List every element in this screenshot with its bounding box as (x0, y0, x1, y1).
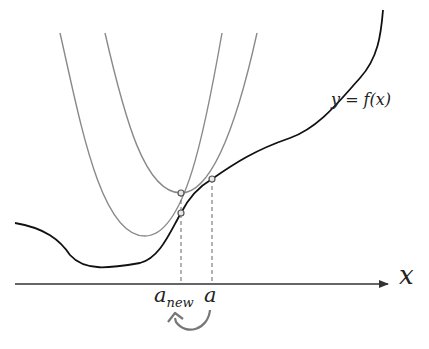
parabola-a-new (60, 33, 222, 236)
a-new-label: anew (154, 283, 194, 310)
newton-method-diagram: y = f(x) x anew a (0, 0, 429, 349)
point-vertex-marker (178, 190, 184, 196)
function-label: y = f(x) (331, 90, 391, 109)
parabola-a (105, 33, 257, 193)
function-curve (15, 10, 383, 267)
point-a-new-marker (178, 210, 184, 216)
a-new-subscript: new (167, 295, 194, 310)
a-new-base: a (154, 283, 167, 307)
x-axis-label: x (399, 260, 414, 290)
update-arrow-icon (175, 310, 210, 330)
point-a-marker (209, 176, 215, 182)
a-label: a (204, 283, 217, 307)
